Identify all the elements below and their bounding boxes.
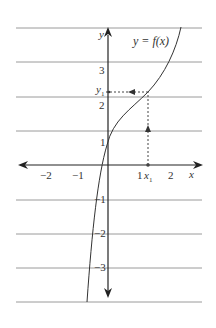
- arrow-left-icon: [128, 89, 135, 95]
- x-tick-neg1: −1: [72, 170, 84, 181]
- y-tick-2: 2: [99, 100, 105, 111]
- y-tick-neg3: −3: [94, 262, 106, 273]
- x1-point: [146, 163, 150, 167]
- x1-label: x1: [144, 170, 152, 184]
- y-tick-1: 1: [100, 137, 106, 148]
- x-tick-1: 1: [137, 170, 143, 181]
- y-axis-label: y: [99, 29, 104, 40]
- arrow-up-icon: [145, 125, 151, 132]
- x-axis: [18, 161, 203, 169]
- y-tick-3: 3: [99, 65, 105, 76]
- x-tick-2: 2: [168, 170, 174, 181]
- construction-lines: [110, 92, 148, 165]
- y-tick-neg1: −1: [94, 194, 106, 205]
- function-label: y = f(x): [133, 35, 169, 47]
- graph-canvas: [0, 0, 216, 328]
- y1-label: y1: [96, 84, 104, 98]
- x-tick-neg2: −2: [40, 170, 52, 181]
- y-tick-neg2: −2: [94, 228, 106, 239]
- y-axis: [104, 27, 112, 298]
- x-axis-label: x: [189, 169, 194, 180]
